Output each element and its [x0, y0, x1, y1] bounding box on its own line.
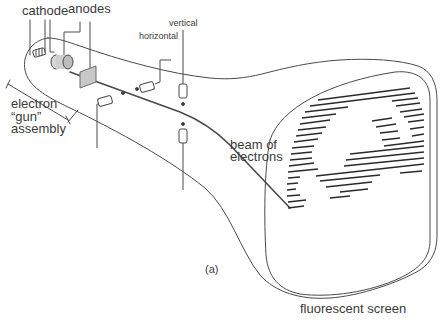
vertical-label: vertical [169, 19, 198, 28]
cathode-coil-icon [32, 48, 45, 58]
gun-label-leader [68, 110, 78, 122]
vertical-coil-upper-icon [179, 30, 187, 106]
vertical-coil-lower-icon [179, 123, 187, 191]
screen-raster-image [287, 88, 424, 208]
horizontal-coil-lower-icon [97, 92, 125, 149]
anode-plate-icon [80, 66, 96, 88]
fluorescent-screen-label: fluorescent screen [300, 302, 406, 315]
beam-label-line2: electrons [230, 150, 283, 163]
cathode-label: cathode [22, 4, 68, 17]
anode-cylinder-icon [51, 55, 73, 69]
crt-diagram [0, 0, 441, 323]
anodes-label: anodes [68, 2, 111, 15]
electron-gun-label-line3: assembly [11, 122, 66, 135]
horizontal-label: horizontal [139, 32, 178, 41]
panel-label: (a) [205, 264, 218, 275]
